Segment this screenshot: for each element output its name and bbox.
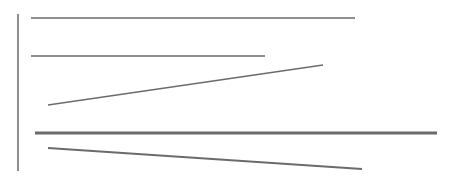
rising-diagonal-line bbox=[48, 65, 323, 105]
falling-diagonal-line bbox=[48, 148, 362, 169]
line-diagram bbox=[0, 0, 452, 177]
